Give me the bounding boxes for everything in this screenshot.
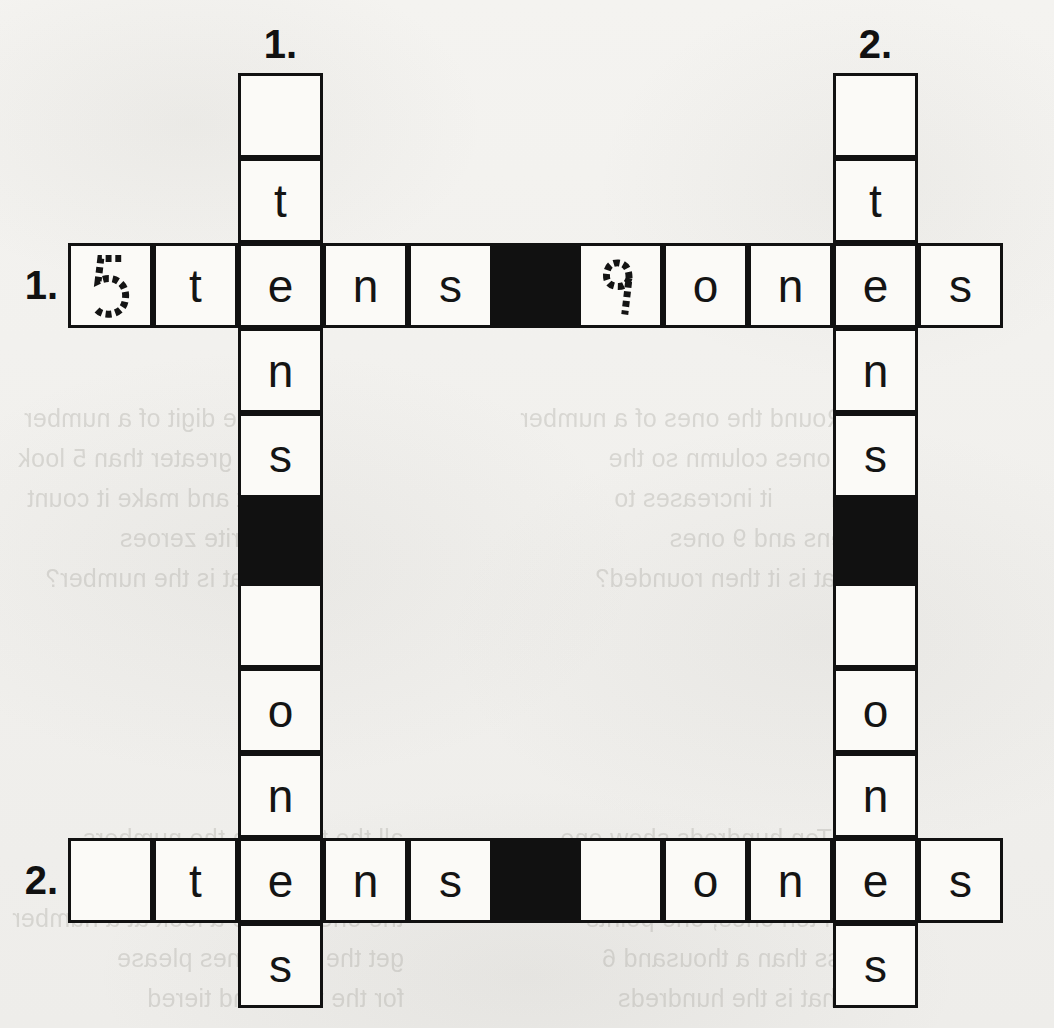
letter-cell[interactable]: s bbox=[408, 838, 493, 923]
empty-cell[interactable] bbox=[68, 838, 153, 923]
clue-number-down-1: 1. bbox=[238, 21, 323, 67]
letter-cell[interactable]: s bbox=[918, 243, 1003, 328]
empty-cell[interactable] bbox=[238, 583, 323, 668]
letter-cell[interactable]: e bbox=[833, 838, 918, 923]
letter-cell[interactable]: n bbox=[238, 753, 323, 838]
letter-cell[interactable]: o bbox=[663, 838, 748, 923]
letter-cell[interactable]: t bbox=[833, 158, 918, 243]
clue-number-across-1: 1. bbox=[8, 243, 58, 328]
clue-number-down-2: 2. bbox=[833, 21, 918, 67]
crossword-grid[interactable]: tensonestensonestnsonstnsons1.2.1.2. bbox=[0, 0, 1054, 1028]
block-cell bbox=[493, 838, 578, 923]
traced-numeral-cell[interactable] bbox=[578, 243, 663, 328]
letter-cell[interactable]: o bbox=[663, 243, 748, 328]
letter-cell[interactable]: s bbox=[408, 243, 493, 328]
empty-cell[interactable] bbox=[833, 73, 918, 158]
letter-cell[interactable]: s bbox=[238, 923, 323, 1008]
letter-cell[interactable]: n bbox=[323, 838, 408, 923]
letter-cell[interactable]: s bbox=[238, 413, 323, 498]
letter-cell[interactable]: s bbox=[833, 413, 918, 498]
letter-cell[interactable]: t bbox=[153, 838, 238, 923]
block-cell bbox=[833, 498, 918, 583]
empty-cell[interactable] bbox=[833, 583, 918, 668]
letter-cell[interactable]: e bbox=[833, 243, 918, 328]
empty-cell[interactable] bbox=[578, 838, 663, 923]
letter-cell[interactable]: e bbox=[238, 838, 323, 923]
letter-cell[interactable]: o bbox=[833, 668, 918, 753]
letter-cell[interactable]: n bbox=[748, 243, 833, 328]
letter-cell[interactable]: e bbox=[238, 243, 323, 328]
letter-cell[interactable]: n bbox=[748, 838, 833, 923]
letter-cell[interactable]: o bbox=[238, 668, 323, 753]
letter-cell[interactable]: s bbox=[833, 923, 918, 1008]
traced-numeral-cell[interactable] bbox=[68, 243, 153, 328]
letter-cell[interactable]: n bbox=[238, 328, 323, 413]
letter-cell[interactable]: n bbox=[833, 328, 918, 413]
block-cell bbox=[493, 243, 578, 328]
empty-cell[interactable] bbox=[238, 73, 323, 158]
letter-cell[interactable]: s bbox=[918, 838, 1003, 923]
letter-cell[interactable]: t bbox=[153, 243, 238, 328]
block-cell bbox=[238, 498, 323, 583]
letter-cell[interactable]: t bbox=[238, 158, 323, 243]
clue-number-across-2: 2. bbox=[8, 838, 58, 923]
letter-cell[interactable]: n bbox=[833, 753, 918, 838]
letter-cell[interactable]: n bbox=[323, 243, 408, 328]
